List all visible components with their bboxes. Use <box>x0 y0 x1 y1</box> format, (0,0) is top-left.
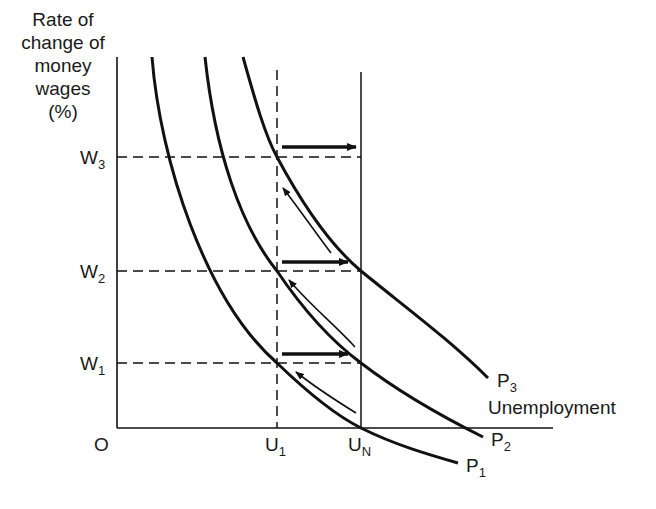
x-axis-label: Unemployment <box>488 397 616 418</box>
phillips-curve-diagram: W3 W2 W1 O U1 UN Unemployment P3 P2 P1 <box>0 0 656 509</box>
curve-p3 <box>243 57 488 378</box>
p3-label: P3 <box>497 370 517 395</box>
u1-label: U1 <box>265 434 286 459</box>
un-label: UN <box>348 434 371 459</box>
p1-label: P1 <box>466 455 486 480</box>
w2-label: W2 <box>80 261 105 286</box>
arrow-up-along-p2-lower <box>289 280 355 347</box>
origin-label: O <box>94 434 109 455</box>
curve-p1 <box>152 57 458 463</box>
w1-label: W1 <box>80 353 105 378</box>
w3-label: W3 <box>80 147 105 172</box>
p2-label: P2 <box>491 429 511 454</box>
curve-p2 <box>205 57 483 437</box>
arrow-up-along-p2-upper <box>283 188 331 253</box>
